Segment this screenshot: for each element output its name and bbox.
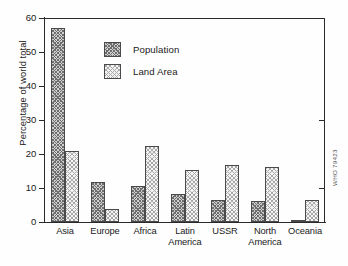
legend-label-land-area: Land Area [133,66,178,77]
y-tick-label: 30 [10,115,36,125]
x-category-label-oceania: Oceania [285,226,325,237]
bar-africa-population [131,186,145,222]
x-category-label-europe: Europe [85,226,125,237]
y-tick-label: 20 [10,149,36,159]
x-category-label-africa: Africa [125,226,165,237]
bar-north-america-land-area [265,167,279,222]
bar-latin-america-land-area [185,170,199,222]
bar-europe-population [91,182,105,222]
legend-item-land-area: Land Area [104,60,179,82]
chart-legend: Population Land Area [104,38,179,82]
legend-item-population: Population [104,38,179,60]
y-tick-label: 60 [10,13,36,23]
bar-africa-land-area [145,146,159,222]
legend-label-population: Population [133,44,179,55]
bar-asia-population [51,28,65,222]
x-category-label-latin-america: LatinAmerica [165,226,205,247]
y-tick-label: 50 [10,47,36,57]
y-tick-label: 0 [10,217,36,227]
legend-swatch-population-icon [104,42,121,57]
y-tick-label: 40 [10,81,36,91]
bar-ussr-land-area [225,165,239,222]
x-axis-line [44,222,326,223]
bar-ussr-population [211,200,225,222]
y-tick-label: 10 [10,183,36,193]
bar-oceania-land-area [305,200,319,222]
y-axis-title: Percentage of world total [18,18,28,168]
legend-swatch-land-area-icon [104,64,121,79]
bar-north-america-population [251,201,265,222]
x-category-label-ussr: USSR [205,226,245,237]
bar-series-container [45,18,325,222]
bar-latin-america-population [171,194,185,222]
x-category-label-asia: Asia [45,226,85,237]
bar-europe-land-area [105,209,119,222]
x-category-label-north-america: NorthAmerica [245,226,285,247]
bar-oceania-population [291,220,305,222]
bar-asia-land-area [65,151,79,222]
chart-figure: Percentage of world total 0102030405060 … [0,0,348,266]
source-code-label: WHO 79423 [331,149,338,186]
